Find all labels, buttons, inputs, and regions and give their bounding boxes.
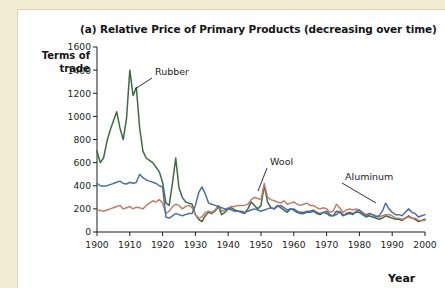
- line-chart: 0200400600800100012001400160019001910192…: [0, 0, 445, 288]
- series-annotation-rubber: Rubber: [155, 66, 189, 77]
- x-axis-tick-label: 1950: [249, 239, 273, 250]
- x-axis-tick-label: 1960: [282, 239, 306, 250]
- y-axis-tick-label: 400: [73, 180, 91, 191]
- series-annotation-wool: Wool: [270, 156, 293, 167]
- x-axis-tick-label: 2000: [413, 239, 437, 250]
- x-axis-tick-label: 1910: [118, 239, 142, 250]
- page-background: (a) Relative Price of Primary Products (…: [0, 0, 445, 288]
- annotation-leader-rubber: [135, 78, 152, 89]
- annotation-leader-aluminum: [342, 183, 376, 203]
- x-axis-tick-label: 1980: [348, 239, 372, 250]
- y-axis-tick-label: 0: [85, 226, 91, 237]
- x-axis-tick-label: 1970: [315, 239, 339, 250]
- x-axis-tick-label: 1930: [184, 239, 208, 250]
- y-axis-tick-label: 600: [73, 157, 91, 168]
- x-axis-tick-label: 1990: [381, 239, 405, 250]
- y-axis-tick-label: 800: [73, 134, 91, 145]
- series-annotation-aluminum: Aluminum: [345, 171, 393, 182]
- y-axis-tick-label: 1600: [68, 41, 92, 52]
- y-axis-tick-label: 1000: [68, 111, 92, 122]
- x-axis-tick-label: 1900: [85, 239, 109, 250]
- y-axis-tick-label: 1200: [68, 88, 92, 99]
- x-axis-tick-label: 1920: [151, 239, 175, 250]
- x-axis-tick-label: 1940: [217, 239, 241, 250]
- y-axis-tick-label: 200: [73, 203, 91, 214]
- y-axis-tick-label: 1400: [68, 65, 92, 76]
